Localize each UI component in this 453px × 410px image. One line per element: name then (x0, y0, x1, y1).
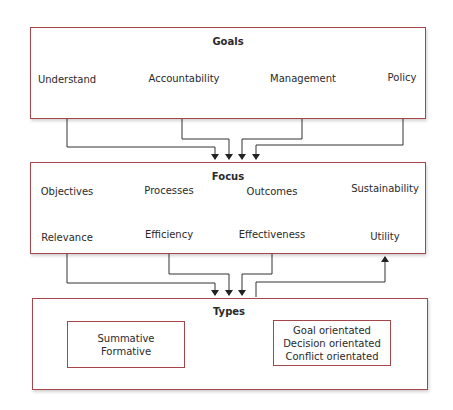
goals-item-policy: Policy (388, 72, 417, 83)
focus-effectiveness: Effectiveness (239, 229, 306, 240)
focus-objectives: Objectives (41, 186, 94, 197)
focus-title: Focus (212, 171, 244, 182)
types-title: Types (213, 306, 245, 317)
goals-title: Goals (212, 36, 243, 47)
goals-item-management: Management (270, 73, 336, 84)
goals-item-understand: Understand (38, 74, 96, 85)
focus-processes: Processes (144, 185, 193, 196)
focus-efficiency: Efficiency (145, 229, 193, 240)
arrow-relevance-to-types (67, 254, 215, 295)
goals-item-accountability: Accountability (148, 73, 219, 84)
types-summative: Summative (97, 332, 154, 345)
types-right-box: Goal orientated Decision orientated Conf… (273, 320, 391, 366)
types-left-box: Summative Formative (67, 321, 185, 368)
types-decision-orientated: Decision orientated (283, 337, 381, 350)
arrow-understand-to-focus (67, 118, 215, 159)
focus-outcomes: Outcomes (247, 186, 298, 197)
focus-sustainability: Sustainability (351, 183, 419, 194)
arrow-accountability-to-focus (182, 118, 229, 159)
types-goal-orientated: Goal orientated (293, 324, 371, 337)
arrow-effectiveness-to-types (242, 254, 272, 295)
arrow-types-to-utility (256, 257, 385, 297)
focus-utility: Utility (370, 231, 399, 242)
arrow-efficiency-to-types (169, 254, 229, 295)
types-formative: Formative (101, 345, 151, 358)
arrow-management-to-focus (242, 118, 302, 159)
arrow-policy-to-focus (256, 118, 403, 159)
types-conflict-orientated: Conflict orientated (285, 350, 378, 363)
focus-relevance: Relevance (41, 232, 93, 243)
